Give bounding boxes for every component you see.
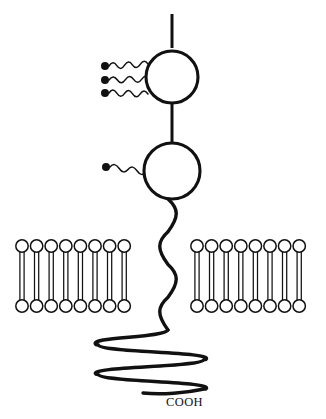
upper-globular-domain <box>146 51 198 103</box>
phospholipid-head-inner <box>118 300 130 312</box>
phospholipid-head-outer <box>60 240 72 252</box>
c-terminus-label: COOH <box>166 395 203 409</box>
phospholipid-head-inner <box>45 300 57 312</box>
phospholipid-head-outer <box>30 240 42 252</box>
glycan-chain-1 <box>109 61 148 68</box>
phospholipid-head-inner <box>30 300 42 312</box>
phospholipid-head-outer <box>45 240 57 252</box>
phospholipid-head-outer <box>278 240 290 252</box>
phospholipid-head-inner <box>264 300 276 312</box>
phospholipid-head-outer <box>205 240 217 252</box>
phospholipid-head-outer <box>293 240 305 252</box>
glycan-chain-4-terminal-sugar <box>102 163 110 171</box>
phospholipid-head-inner <box>16 300 28 312</box>
phospholipid-head-outer <box>220 240 232 252</box>
extracellular-region <box>101 14 200 199</box>
phospholipid-head-inner <box>74 300 86 312</box>
phospholipid-head-outer <box>249 240 261 252</box>
phospholipid-head-inner <box>89 300 101 312</box>
phospholipid-head-outer <box>118 240 130 252</box>
phospholipid-head-outer <box>235 240 247 252</box>
phospholipid-head-inner <box>220 300 232 312</box>
phospholipid-head-outer <box>103 240 115 252</box>
phospholipid-head-outer <box>264 240 276 252</box>
phospholipid-head-outer <box>89 240 101 252</box>
glycan-chain-3 <box>109 90 148 97</box>
transmembrane-helix <box>160 199 177 330</box>
phospholipid-head-inner <box>249 300 261 312</box>
glycan-chain-2 <box>109 76 150 83</box>
phospholipid-head-inner <box>293 300 305 312</box>
glycan-chain-3-terminal-sugar <box>101 89 109 97</box>
phospholipid-head-outer <box>74 240 86 252</box>
bilayer-left-patch <box>16 240 131 312</box>
phospholipid-head-inner <box>103 300 115 312</box>
lower-globular-domain <box>144 143 200 199</box>
phospholipid-head-inner <box>235 300 247 312</box>
glycan-chain-2-terminal-sugar <box>101 76 109 84</box>
cytoplasmic-coil <box>95 330 206 394</box>
phospholipid-head-inner <box>191 300 203 312</box>
bilayer-right-patch <box>191 240 306 312</box>
phospholipid-head-outer <box>191 240 203 252</box>
phospholipid-head-inner <box>60 300 72 312</box>
glycan-chain-group <box>101 61 150 174</box>
phospholipid-head-inner <box>205 300 217 312</box>
phospholipid-head-inner <box>278 300 290 312</box>
phospholipid-head-outer <box>16 240 28 252</box>
glycan-chain-4 <box>110 165 146 175</box>
membrane-glycoprotein-diagram: COOH <box>0 0 326 419</box>
diagram-canvas: COOH <box>0 0 326 419</box>
glycan-chain-1-terminal-sugar <box>101 62 109 70</box>
